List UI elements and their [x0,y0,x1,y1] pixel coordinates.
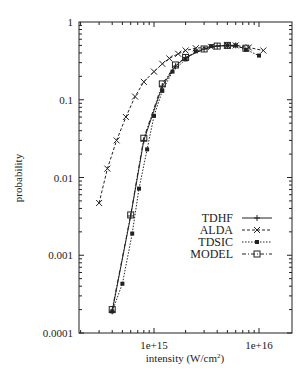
y-tick-label: 0.001 [48,249,73,261]
x-tick-labels: 1e+151e+16 [140,339,273,351]
axis-ticks [79,22,292,333]
legend: TDHFALDATDSICMODEL [190,211,272,261]
x-axis-label: intensity (W/cm2) [146,352,225,365]
y-tick-label: 0.0001 [43,327,73,339]
series-tdhf [109,42,238,314]
x-tick-label: 1e+16 [245,339,273,351]
plot-frame [79,22,292,333]
y-tick-label: 0.01 [54,172,73,184]
y-tick-labels: 10.10.010.0010.0001 [43,16,73,339]
y-tick-label: 1 [68,16,74,28]
legend-sample-alda [242,227,272,233]
series-tdsic [110,43,261,313]
legend-label: MODEL [190,247,233,261]
chart: 10.10.010.0010.0001 1e+151e+16 TDHFALDAT… [0,0,306,382]
legend-sample-model [242,251,272,257]
y-axis-label: probability [12,153,24,202]
series-alda [96,42,266,206]
y-tick-label: 0.1 [59,94,73,106]
legend-sample-tdsic [242,240,272,244]
series-model [109,42,249,312]
series-layer [96,42,266,314]
legend-sample-tdhf [242,215,272,221]
x-tick-label: 1e+15 [140,339,168,351]
